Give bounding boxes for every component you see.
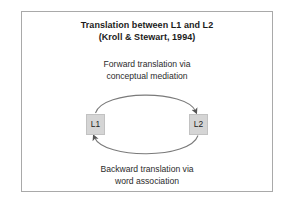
- node-l2: L2: [189, 114, 208, 135]
- node-l1-label: L1: [91, 120, 100, 128]
- figure-root: Translation between L1 and L2 (Kroll & S…: [0, 0, 294, 203]
- backward-translation-caption-line-1: Backward translation via: [21, 164, 273, 176]
- forward-arrow: [96, 95, 196, 113]
- backward-arrow: [95, 136, 199, 154]
- node-l2-label: L2: [194, 120, 203, 128]
- backward-translation-caption-line-2: word association: [21, 176, 273, 188]
- node-l1: L1: [86, 114, 105, 135]
- backward-translation-caption: Backward translation via word associatio…: [21, 164, 273, 187]
